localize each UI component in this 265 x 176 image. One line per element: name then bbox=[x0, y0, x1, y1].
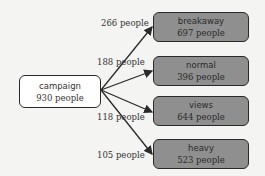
node-breakaway-count: 697 people bbox=[177, 27, 225, 39]
node-heavy-name: heavy bbox=[188, 142, 214, 154]
node-campaign-name: campaign bbox=[39, 80, 81, 92]
node-breakaway: breakaway 697 people bbox=[153, 12, 249, 42]
edge-label-breakaway: 266 people bbox=[101, 18, 149, 28]
edge-label-views: 118 people bbox=[97, 112, 145, 122]
node-normal: normal 396 people bbox=[153, 56, 249, 86]
node-normal-name: normal bbox=[186, 59, 216, 71]
arrow-to-views bbox=[101, 90, 152, 112]
node-views-name: views bbox=[189, 99, 213, 111]
node-views-count: 644 people bbox=[177, 111, 225, 123]
node-breakaway-name: breakaway bbox=[178, 15, 224, 27]
node-heavy: heavy 523 people bbox=[153, 139, 249, 169]
node-views: views 644 people bbox=[153, 96, 249, 126]
edge-label-normal: 188 people bbox=[97, 57, 145, 67]
node-campaign: campaign 930 people bbox=[19, 75, 101, 108]
node-normal-count: 396 people bbox=[177, 71, 225, 83]
arrow-to-heavy bbox=[101, 90, 152, 154]
node-campaign-count: 930 people bbox=[36, 92, 84, 104]
edge-label-heavy: 105 people bbox=[97, 150, 145, 160]
node-heavy-count: 523 people bbox=[177, 154, 225, 166]
